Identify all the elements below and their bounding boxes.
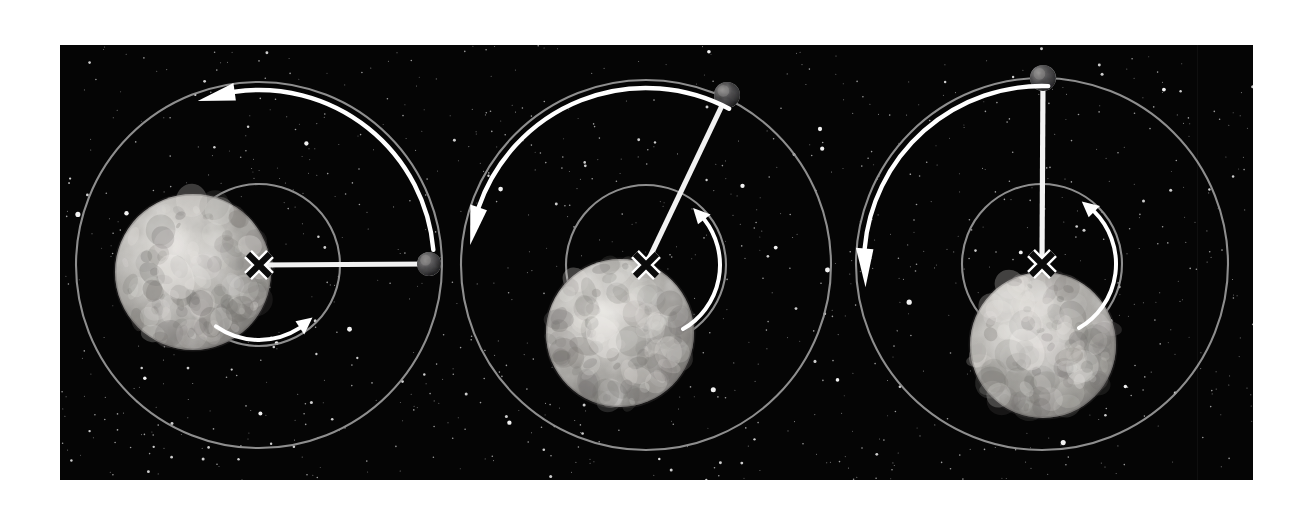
radius-line — [259, 264, 429, 265]
panel-3 — [856, 65, 1228, 450]
panel-2 — [461, 80, 831, 450]
plate-seam — [1197, 45, 1198, 480]
planet-body — [540, 253, 697, 415]
orbital-diagram — [60, 45, 1253, 480]
figure-root — [0, 0, 1316, 523]
planet-body — [966, 264, 1123, 424]
satellite-body — [417, 252, 441, 276]
panel-1 — [76, 82, 442, 448]
radius-line — [1042, 78, 1043, 264]
barycenter-marker — [1031, 253, 1053, 275]
starfield-plate — [60, 45, 1253, 480]
barycenter-marker — [635, 254, 657, 276]
barycenter-marker — [248, 254, 270, 276]
